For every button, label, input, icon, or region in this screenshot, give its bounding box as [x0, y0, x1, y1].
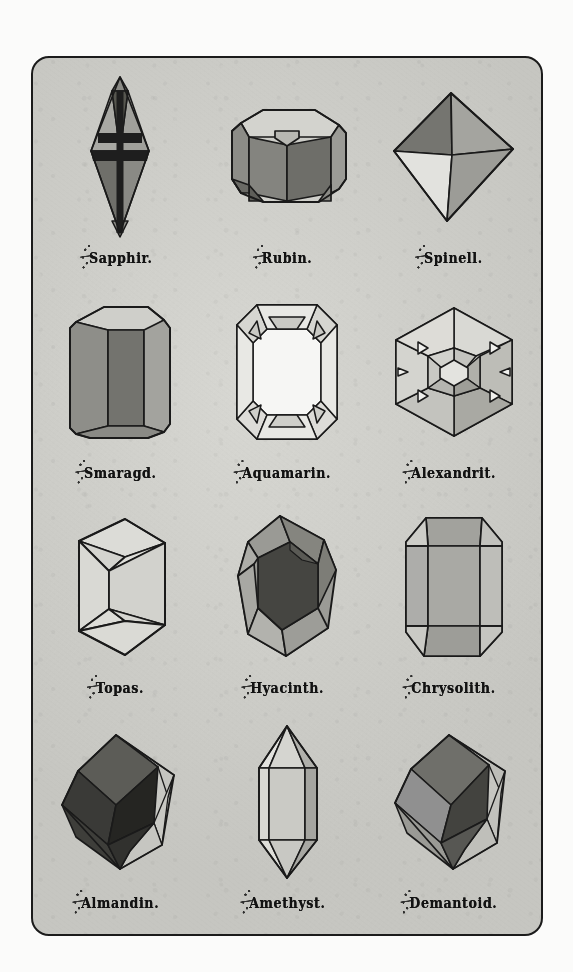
specimen-cell-topas[interactable]: Topas.: [37, 494, 204, 709]
sapphir-crystal-icon: [81, 73, 159, 241]
gem-plate-root: Sapphir.: [0, 0, 573, 972]
specimen-cell-chrysolith[interactable]: Chrysolith.: [370, 494, 537, 709]
specimen-cell-amethyst[interactable]: Amethyst.: [204, 709, 371, 924]
specimen-label-aquamarin: Aquamarin.: [243, 466, 332, 495]
amethyst-figure: [204, 709, 371, 896]
specimen-cell-spinell[interactable]: Spinell.: [370, 64, 537, 279]
specimen-label-hyacinth: Hyacinth.: [250, 681, 324, 710]
amethyst-crystal-icon: [241, 722, 333, 882]
specimen-label-smaragd: Smaragd.: [84, 466, 156, 495]
specimen-grid: Sapphir.: [33, 58, 541, 934]
topas-crystal-icon: [67, 513, 173, 661]
alexandrit-figure: [370, 279, 537, 466]
alexandrit-crystal-icon: [388, 304, 520, 440]
specimen-label-topas: Topas.: [96, 681, 144, 710]
specimen-label-almandin: Almandin.: [81, 896, 159, 925]
specimen-cell-almandin[interactable]: Almandin.: [37, 709, 204, 924]
aquamarin-crystal-icon: [231, 299, 343, 445]
rubin-crystal-icon: [219, 101, 355, 213]
specimen-label-spinell: Spinell.: [424, 251, 483, 280]
aquamarin-figure: [204, 279, 371, 466]
smaragd-crystal-icon: [66, 302, 174, 442]
sapphir-figure: [37, 64, 204, 251]
demantoid-figure: [370, 709, 537, 896]
specimen-label-alexandrit: Alexandrit.: [411, 466, 496, 495]
specimen-cell-hyacinth[interactable]: Hyacinth.: [204, 494, 371, 709]
demantoid-crystal-icon: [383, 727, 525, 877]
hyacinth-figure: [204, 494, 371, 681]
hyacinth-crystal-icon: [232, 512, 342, 662]
specimen-label-amethyst: Amethyst.: [249, 896, 325, 925]
spinell-figure: [370, 64, 537, 251]
specimen-label-chrysolith: Chrysolith.: [411, 681, 495, 710]
chrysolith-crystal-icon: [398, 512, 510, 662]
specimen-cell-sapphir[interactable]: Sapphir.: [37, 64, 204, 279]
specimen-cell-demantoid[interactable]: Demantoid.: [370, 709, 537, 924]
almandin-figure: [37, 709, 204, 896]
smaragd-figure: [37, 279, 204, 466]
chrysolith-figure: [370, 494, 537, 681]
topas-figure: [37, 494, 204, 681]
almandin-crystal-icon: [50, 727, 190, 877]
specimen-label-rubin: Rubin.: [262, 251, 312, 280]
rubin-figure: [204, 64, 371, 251]
specimen-label-demantoid: Demantoid.: [410, 896, 498, 925]
specimen-label-sapphir: Sapphir.: [89, 251, 152, 280]
specimen-cell-smaragd[interactable]: Smaragd.: [37, 279, 204, 494]
specimen-cell-aquamarin[interactable]: Aquamarin.: [204, 279, 371, 494]
spinell-crystal-icon: [389, 87, 519, 227]
plate-frame: Sapphir.: [31, 56, 543, 936]
specimen-cell-alexandrit[interactable]: Alexandrit.: [370, 279, 537, 494]
specimen-cell-rubin[interactable]: Rubin.: [204, 64, 371, 279]
